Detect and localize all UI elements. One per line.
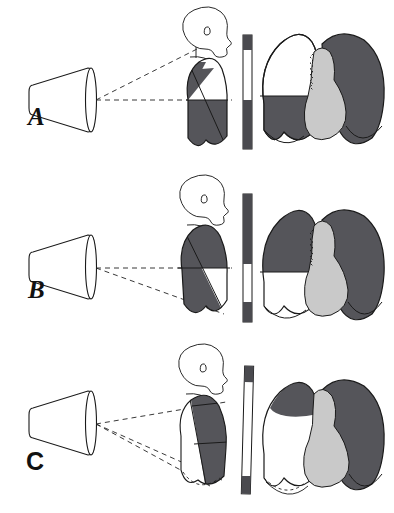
panel-b: B xyxy=(0,172,394,344)
radiograph-frontal-c xyxy=(263,380,384,494)
patient-lateral-thorax-b xyxy=(178,225,232,322)
patient-head-profile-c xyxy=(179,344,228,394)
panel-c: C xyxy=(0,344,394,513)
film-cassette-a xyxy=(243,35,252,149)
x-ray-tube-cone-c xyxy=(29,391,97,455)
panel-label-b: B xyxy=(28,277,45,302)
panel-c-graphics xyxy=(0,344,394,513)
panel-a-graphics xyxy=(0,0,394,172)
patient-head-profile-a xyxy=(183,7,232,58)
patient-lateral-thorax-a xyxy=(180,58,236,160)
radiographic-projection-figure: A xyxy=(0,0,394,513)
panel-label-a: A xyxy=(28,104,45,129)
patient-head-profile-b xyxy=(180,175,229,225)
film-cassette-c xyxy=(241,366,253,494)
radiograph-frontal-b xyxy=(256,202,384,320)
panel-a: A xyxy=(0,0,394,172)
panel-label-c: C xyxy=(26,449,44,474)
patient-lateral-thorax-c xyxy=(180,394,234,490)
film-cassette-b xyxy=(243,194,252,322)
panel-b-graphics xyxy=(0,172,394,344)
radiograph-frontal-a xyxy=(256,34,384,156)
